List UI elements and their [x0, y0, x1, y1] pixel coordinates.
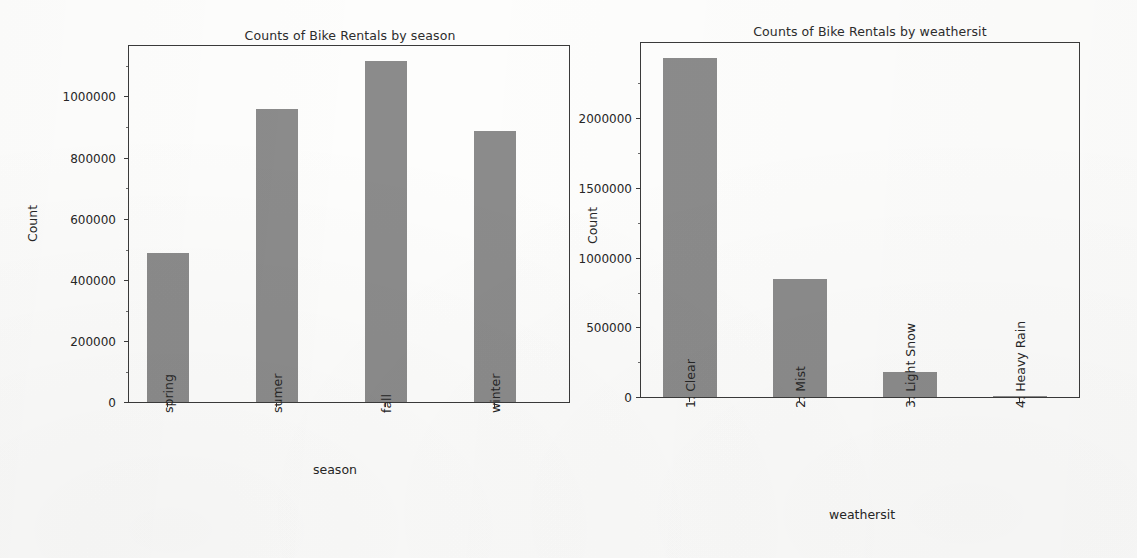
- bar-clear[interactable]: [663, 58, 717, 397]
- xtick-label-clear: 1: Clear: [683, 359, 698, 408]
- ytick-label-season-1000000: 1000000: [10, 90, 116, 104]
- ytick-label-season-200000: 200000: [10, 335, 116, 349]
- ytick-label-weathersit-500000: 500000: [574, 321, 632, 335]
- ytick-label-weathersit-1500000: 1500000: [574, 182, 632, 196]
- chart-title-season: Counts of Bike Rentals by season: [130, 28, 570, 43]
- ytick-mark-600000: [124, 219, 128, 220]
- bar-fall[interactable]: [365, 61, 407, 402]
- ytick-label-season-800000: 800000: [10, 152, 116, 166]
- ytick-mark-minor: [638, 223, 641, 224]
- ytick-mark-minor: [126, 250, 129, 251]
- ytick-mark-0: [124, 402, 128, 403]
- ytick-mark-1000000: [124, 96, 128, 97]
- ytick-mark-400000: [124, 280, 128, 281]
- chart-panel-weathersit: Counts of Bike Rentals by weathersit 0 5…: [570, 0, 1137, 558]
- chart-title-weathersit: Counts of Bike Rentals by weathersit: [650, 24, 1090, 39]
- ytick-mark-minor: [126, 372, 129, 373]
- ytick-mark-800000: [124, 158, 128, 159]
- ytick-mark-minor: [638, 83, 641, 84]
- ytick-mark-2000000: [636, 118, 640, 119]
- xtick-label-light-snow: 3: Light Snow: [903, 323, 918, 408]
- bar-winter[interactable]: [474, 131, 516, 402]
- xtick-label-spring: spring: [161, 374, 176, 413]
- ytick-mark-minor: [126, 311, 129, 312]
- ytick-mark-minor: [638, 362, 641, 363]
- plot-area-season: [128, 45, 570, 403]
- ytick-mark-500000: [636, 327, 640, 328]
- ytick-mark-0: [636, 397, 640, 398]
- bar-sumer[interactable]: [256, 109, 298, 402]
- ytick-mark-minor: [126, 188, 129, 189]
- ytick-label-weathersit-1000000: 1000000: [574, 252, 632, 266]
- xtick-label-heavy-rain: 4: Heavy Rain: [1013, 321, 1028, 408]
- xtick-label-sumer: sumer: [270, 374, 285, 413]
- ytick-mark-minor: [638, 293, 641, 294]
- ytick-label-weathersit-0: 0: [574, 391, 632, 405]
- yaxis-label-weathersit: Count: [585, 202, 600, 250]
- ytick-label-season-400000: 400000: [10, 274, 116, 288]
- xaxis-label-season: season: [313, 462, 357, 477]
- ytick-mark-minor: [126, 127, 129, 128]
- ytick-label-weathersit-2000000: 2000000: [574, 112, 632, 126]
- ytick-mark-minor: [638, 153, 641, 154]
- ytick-mark-1500000: [636, 188, 640, 189]
- ytick-label-season-0: 0: [10, 396, 116, 410]
- yaxis-label-season: Count: [25, 200, 40, 248]
- xaxis-label-weathersit: weathersit: [829, 507, 895, 522]
- figure-canvas: Counts of Bike Rentals by season 0 20000…: [0, 0, 1137, 558]
- xtick-label-fall: fall: [379, 394, 394, 413]
- ytick-mark-1000000: [636, 258, 640, 259]
- ytick-mark-minor: [126, 66, 129, 67]
- ytick-mark-200000: [124, 341, 128, 342]
- chart-panel-season: Counts of Bike Rentals by season 0 20000…: [0, 0, 570, 558]
- xtick-label-mist: 2: Mist: [793, 366, 808, 408]
- xtick-label-winter: winter: [488, 374, 503, 413]
